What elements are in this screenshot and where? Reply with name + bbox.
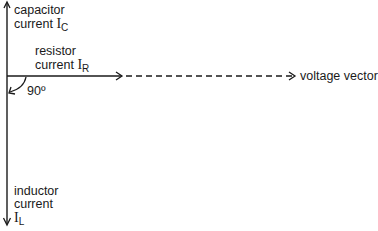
resistor-current-word: current: [35, 58, 74, 72]
capacitor-subscript: C: [61, 22, 68, 33]
capacitor-label: capacitor current IC: [14, 4, 68, 31]
angle-arc-icon: [10, 77, 26, 92]
capacitor-label-line2: current IC: [14, 17, 68, 31]
inductor-symbol: I: [14, 210, 19, 225]
resistor-subscript: R: [82, 63, 89, 74]
resistor-label-line2: current IR: [35, 58, 89, 72]
capacitor-current-word: current: [14, 17, 53, 31]
resistor-label: resistor current IR: [35, 45, 89, 72]
inductor-label-line3: IL: [14, 211, 58, 225]
inductor-subscript: L: [19, 216, 25, 227]
inductor-label: inductor current IL: [14, 185, 58, 225]
voltage-vector-label: voltage vector: [300, 70, 378, 83]
inductor-label-line2: current: [14, 198, 58, 211]
angle-label: 90º: [27, 85, 45, 98]
